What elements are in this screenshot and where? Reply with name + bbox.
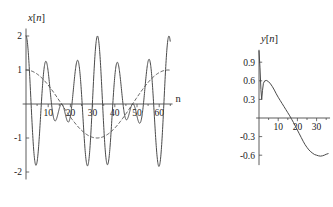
y-tick-label: 1 <box>17 65 22 75</box>
left-chart-svg: 10203040506021-1-2x[n]n <box>0 0 210 207</box>
series-modulated-signal <box>26 36 170 166</box>
right-chart-svg: 1020300.90.60.3-0.3-0.6y[n] <box>210 0 333 207</box>
y-tick-label: 0.3 <box>243 95 255 105</box>
y-axis-label-bracket-close: ] <box>41 12 45 23</box>
series-filtered-output <box>259 51 328 156</box>
y-tick-label: 0.6 <box>243 76 255 86</box>
chart-panel-left: 10203040506021-1-2x[n]n <box>0 0 210 207</box>
y-axis-label-bracket-close: ] <box>274 33 278 44</box>
x-tick-label: 30 <box>88 108 98 118</box>
y-axis-label: y[n] <box>260 33 278 44</box>
x-tick-label: 10 <box>273 122 283 132</box>
y-tick-label: 0.9 <box>243 58 255 68</box>
y-tick-label: -0.3 <box>240 132 255 142</box>
y-tick-label: -1 <box>14 133 22 143</box>
chart-panel-right: 1020300.90.60.3-0.3-0.6y[n] <box>210 0 333 207</box>
x-tick-label: 30 <box>312 122 322 132</box>
x-tick-label: 40 <box>110 108 120 118</box>
x-axis-label: n <box>176 93 182 104</box>
y-tick-label: -0.6 <box>240 151 255 161</box>
figure-container: 10203040506021-1-2x[n]n 1020300.90.60.3-… <box>0 0 333 207</box>
y-tick-label: 2 <box>17 31 22 41</box>
y-tick-label: -2 <box>14 167 22 177</box>
y-axis-label: x[n] <box>27 12 45 23</box>
